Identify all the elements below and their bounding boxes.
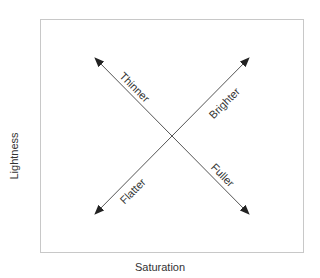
y-axis-label: Lightness: [8, 126, 20, 186]
flatter-arrow-icon: [95, 136, 172, 214]
x-axis-label: Saturation: [0, 261, 320, 273]
thinner-arrow-icon: [95, 58, 172, 136]
arrow-diagram: [0, 0, 320, 278]
fuller-arrow-icon: [172, 136, 249, 214]
